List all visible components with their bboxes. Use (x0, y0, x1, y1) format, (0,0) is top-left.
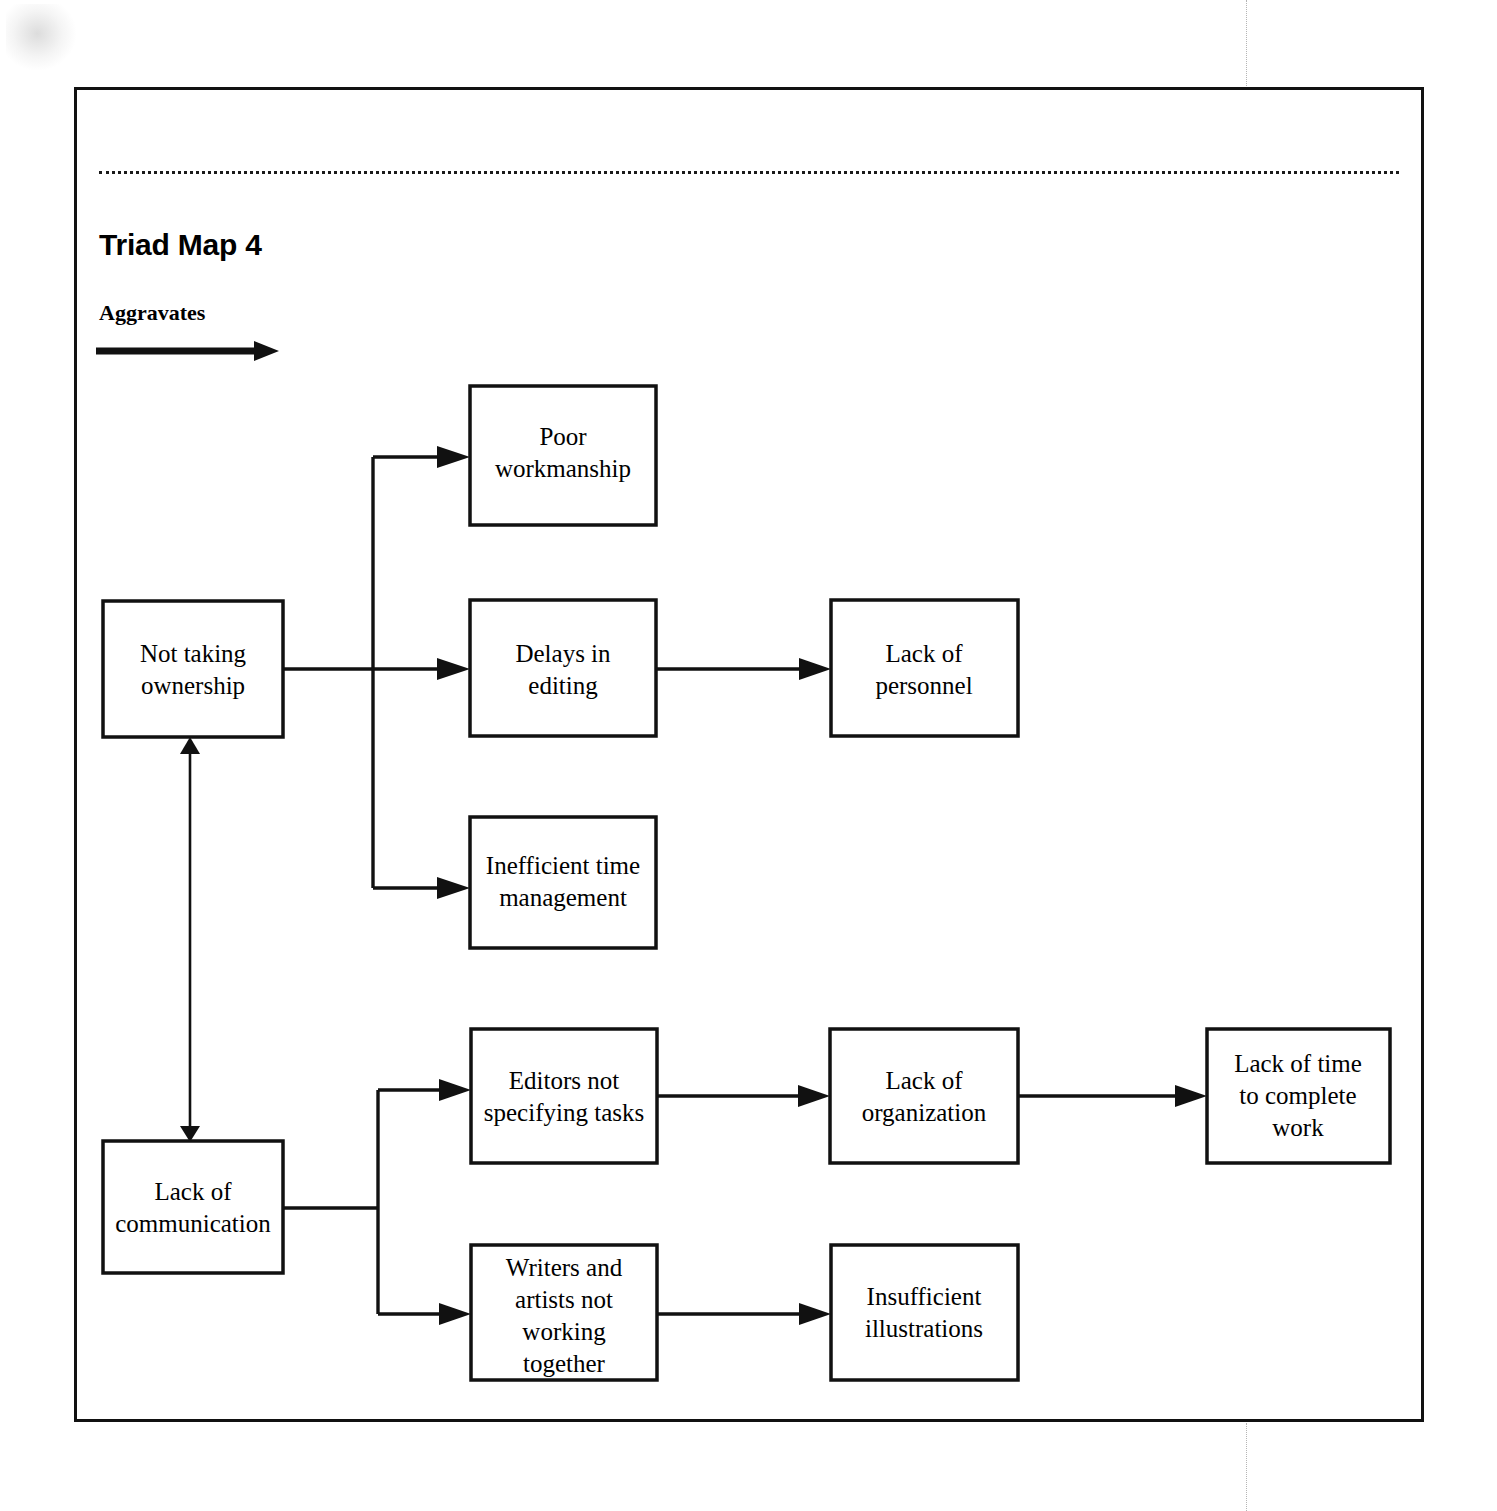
node-label-line: illustrations (865, 1315, 983, 1342)
node-label-line: Writers and (506, 1254, 623, 1281)
node-poor-workmanship[interactable]: Poor workmanship (470, 386, 656, 525)
page-title: Triad Map 4 (99, 228, 262, 262)
node-label-line: artists not (515, 1286, 613, 1313)
node-label-line: Lack of (154, 1178, 232, 1205)
node-label-line: editing (528, 672, 598, 699)
node-writers-and-artists-not-working-together[interactable]: Writers and artists not working together (471, 1245, 657, 1380)
node-insufficient-illustrations[interactable]: Insufficient illustrations (831, 1245, 1018, 1380)
node-inefficient-time-management[interactable]: Inefficient time management (470, 817, 656, 948)
node-label-line: Lack of time (1234, 1050, 1362, 1077)
node-label-line: Inefficient time (486, 852, 640, 879)
node-label-line: Lack of (885, 640, 963, 667)
top-crop-mark (1246, 0, 1247, 88)
node-label-line: Editors not (509, 1067, 619, 1094)
node-not-taking-ownership[interactable]: Not taking ownership (103, 601, 283, 737)
node-label-line: Delays in (515, 640, 611, 667)
legend-right-arrow-icon (94, 336, 279, 366)
node-label-line: workmanship (495, 455, 631, 482)
node-label-line: to complete (1239, 1082, 1356, 1109)
node-editors-not-specifying-tasks[interactable]: Editors not specifying tasks (471, 1029, 657, 1163)
node-delays-in-editing[interactable]: Delays in editing (470, 600, 656, 736)
node-lack-of-organization[interactable]: Lack of organization (830, 1029, 1018, 1163)
node-lack-of-time-to-complete-work[interactable]: Lack of time to complete work (1207, 1029, 1390, 1163)
node-lack-of-personnel[interactable]: Lack of personnel (831, 600, 1018, 736)
node-lack-of-communication[interactable]: Lack of communication (103, 1141, 283, 1273)
node-label-line: ownership (141, 672, 245, 699)
node-label-line: personnel (875, 672, 972, 699)
node-label-line: Insufficient (867, 1283, 982, 1310)
dotted-divider-rule (99, 171, 1399, 174)
scanned-page: Triad Map 4 Aggravates (0, 0, 1497, 1511)
node-label-line: communication (115, 1210, 271, 1237)
node-label-line: work (1272, 1114, 1324, 1141)
legend-label: Aggravates (99, 300, 205, 326)
node-label-line: Lack of (885, 1067, 963, 1094)
node-label-line: working (522, 1318, 606, 1345)
node-label-line: Poor (539, 423, 587, 450)
node-label-line: Not taking (140, 640, 247, 667)
node-label-line: organization (862, 1099, 987, 1126)
node-label-line: specifying tasks (484, 1099, 644, 1126)
node-label-line: management (499, 884, 627, 911)
scan-smudge-artifact (6, 4, 76, 70)
node-label-line: together (523, 1350, 606, 1377)
bottom-crop-mark (1246, 1423, 1247, 1511)
